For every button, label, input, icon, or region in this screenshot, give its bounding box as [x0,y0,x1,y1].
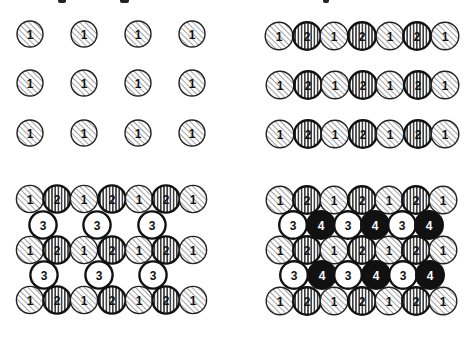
atom-number: 1 [277,295,284,309]
atom-layer-2: 2 [404,120,432,148]
atom-number: 2 [413,295,420,309]
atom-layer-2: 2 [98,236,125,263]
atom-number: 1 [27,244,34,258]
atom-number: 2 [163,193,170,207]
atom-number: 3 [94,219,101,233]
atom-number: 1 [27,294,34,308]
atom-row: 1111 [17,21,205,47]
atom-number: 1 [440,295,447,309]
atom-number: 1 [387,79,394,93]
atom-layer-4: 4 [308,261,336,289]
atom-layer-1: 1 [125,286,152,313]
atom-layer-2: 2 [293,236,321,264]
atom-number: 1 [386,244,393,258]
atom-layer-1: 1 [71,70,97,96]
atom-layer-1: 1 [431,71,459,99]
atom-layer-3: 3 [388,211,416,239]
atom-layer-3: 3 [30,261,57,288]
atom-number: 3 [149,219,156,233]
atom-layer-1: 1 [429,287,457,315]
atom-layer-1: 1 [429,236,457,264]
atom-number: 4 [318,219,325,233]
atom-layer-1: 1 [431,120,459,148]
atom-layer-1: 1 [179,286,206,313]
atom-layer-1: 1 [125,120,151,146]
caption-fragment [120,0,129,3]
atom-layer-2: 2 [349,71,377,99]
atom-layer-1: 1 [320,236,348,264]
atom-layer-2: 2 [348,236,376,264]
atom-number: 1 [136,294,143,308]
atom-number: 1 [331,194,338,208]
atom-layer-1: 1 [266,287,294,315]
atom-layer-1: 1 [179,185,206,212]
atom-row: 333 [29,211,165,238]
atom-number: 1 [331,295,338,309]
atom-layer-1: 1 [16,185,43,212]
atom-layer-1: 1 [17,21,43,47]
atom-layer-1: 1 [266,71,294,99]
atom-number: 2 [415,79,422,93]
atom-number: 1 [332,79,339,93]
atom-layer-1: 1 [179,120,205,146]
atom-layer-1: 1 [376,120,404,148]
atom-number: 1 [135,28,142,42]
atom-number: 1 [331,244,338,258]
panel-top-right: Layers 1 and 2121212112121211212121 [265,22,459,148]
atom-number: 1 [189,127,196,141]
atom-number: 2 [54,193,61,207]
atom-layer-3: 3 [83,211,110,238]
atom-number: 1 [136,193,143,207]
atom-row: 1212121 [266,186,457,214]
atom-number: 1 [387,30,394,44]
atom-number: 1 [81,28,88,42]
caption-fragment [58,0,66,3]
atom-number: 2 [54,294,61,308]
atom-number: 3 [40,219,47,233]
atom-layer-1: 1 [266,236,294,264]
atom-number: 2 [359,295,366,309]
atom-layer-3: 3 [138,211,165,238]
atom-row: 1212121 [266,120,459,148]
atom-row: 343434 [279,211,443,239]
atom-layer-2: 2 [402,186,430,214]
atom-number: 1 [442,30,449,44]
atom-layer-1: 1 [320,22,348,50]
atom-number: 2 [304,194,311,208]
atom-layer-1: 1 [125,185,152,212]
atom-number: 3 [345,219,352,233]
atom-number: 1 [189,77,196,91]
atom-layer-2: 2 [43,286,70,313]
atom-number: 1 [387,128,394,142]
atom-number: 4 [426,219,433,233]
atom-layer-3: 3 [334,261,362,289]
atom-number: 1 [81,294,88,308]
atom-layer-4: 4 [307,211,335,239]
atom-number: 1 [332,128,339,142]
cropped-caption-fragments [0,0,473,4]
atom-layer-2: 2 [294,120,322,148]
atom-layer-1: 1 [266,120,294,148]
atom-number: 3 [399,219,406,233]
atom-number: 1 [27,77,34,91]
atom-number: 2 [109,244,116,258]
atom-number: 1 [190,193,197,207]
atom-number: 2 [304,295,311,309]
atom-layer-2: 2 [98,286,125,313]
atom-row: 1212121 [265,22,459,50]
atom-layer-2: 2 [404,71,432,99]
atom-number: 2 [413,194,420,208]
atom-layer-1: 1 [429,186,457,214]
atom-number: 1 [27,127,34,141]
atom-layer-1: 1 [179,236,206,263]
atom-layer-1: 1 [70,185,97,212]
atom-row: 1212121 [16,185,206,212]
atom-number: 2 [359,244,366,258]
atom-number: 1 [190,294,197,308]
caption-fragment [323,0,329,3]
atom-layer-3: 3 [280,261,308,289]
atom-number: 1 [81,244,88,258]
atom-number: 3 [290,219,297,233]
atom-number: 1 [81,193,88,207]
atom-layer-2: 2 [293,186,321,214]
